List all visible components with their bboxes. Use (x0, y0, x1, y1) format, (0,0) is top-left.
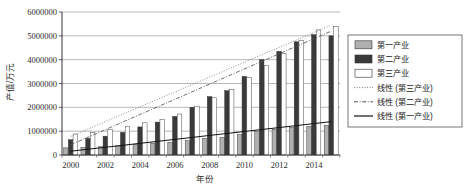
bar-第三产业 (108, 129, 113, 155)
bar-第二产业 (155, 122, 160, 155)
legend-label: 第一产业 (377, 40, 409, 50)
bar-第二产业 (173, 116, 178, 155)
bar-第一产业 (289, 128, 294, 155)
legend-label: 线性 (第三产业) (377, 83, 433, 93)
bar-第三产业 (229, 89, 234, 155)
legend-label: 第二产业 (377, 54, 409, 64)
bar-第三产业 (143, 123, 148, 155)
bar-第三产业 (282, 54, 287, 155)
bar-第三产业 (212, 98, 217, 155)
y-tick-label: 3000000 (27, 79, 57, 89)
bar-第一产业 (64, 148, 68, 155)
bar-第二产业 (277, 51, 282, 155)
bar-第二产业 (312, 35, 317, 155)
bar-第二产业 (294, 42, 299, 155)
bar-第三产业 (125, 126, 130, 155)
bar-第三产业 (247, 78, 252, 155)
bar-第一产业 (255, 132, 260, 155)
bar-第一产业 (116, 146, 121, 155)
x-tick-label: 2000 (62, 160, 79, 170)
bar-第二产业 (190, 107, 195, 155)
bar-第一产业 (203, 138, 208, 155)
bar-第二产业 (225, 91, 230, 155)
bar-第三产业 (160, 119, 165, 155)
bar-第一产业 (237, 135, 242, 155)
legend-label: 线性 (第一产业) (377, 111, 433, 121)
x-axis-ticks: 20002002200420062008201020122014 (62, 155, 340, 170)
bar-第三产业 (177, 114, 182, 155)
x-tick-label: 2008 (201, 160, 218, 170)
legend-swatch-icon (355, 55, 372, 63)
legend-swatch-icon (355, 41, 372, 49)
bar-第二产业 (242, 76, 247, 155)
y-tick-label: 2000000 (27, 102, 57, 112)
legend-item: 第二产业 (355, 54, 409, 64)
bar-第三产业 (195, 106, 200, 155)
bar-第二产业 (103, 136, 108, 155)
legend-item: 第一产业 (355, 40, 409, 50)
x-tick-label: 2004 (132, 160, 150, 170)
bar-第一产业 (324, 125, 329, 155)
y-tick-label: 6000000 (27, 7, 57, 17)
y-tick-label: 5000000 (27, 31, 57, 41)
bar-第二产业 (86, 138, 91, 155)
bar-第二产业 (138, 127, 143, 155)
industry-output-bar-chart: 0100000020000003000000400000050000006000… (0, 0, 466, 189)
bar-第二产业 (329, 36, 334, 155)
bar-第一产业 (220, 137, 225, 155)
x-axis-title: 年份 (196, 174, 214, 184)
x-tick-label: 2002 (97, 160, 114, 170)
y-tick-label: 1000000 (27, 126, 57, 136)
bar-第二产业 (207, 97, 212, 155)
y-axis-title: 产值/万元 (5, 63, 15, 101)
y-axis-ticks: 0100000020000003000000400000050000006000… (27, 7, 62, 160)
x-tick-label: 2006 (166, 160, 183, 170)
x-tick-label: 2014 (305, 160, 323, 170)
bar-第三产业 (316, 30, 321, 155)
bar-第一产业 (81, 147, 86, 155)
bar-第一产业 (185, 141, 190, 155)
bar-第二产业 (68, 140, 73, 155)
bar-第一产业 (133, 144, 138, 155)
legend-label: 线性 (第二产业) (377, 97, 433, 107)
bar-第一产业 (272, 129, 277, 155)
bar-第三产业 (299, 41, 304, 155)
bar-第一产业 (150, 143, 155, 155)
trendline-线性 (第三产业) (71, 25, 332, 136)
legend-label: 第三产业 (377, 68, 409, 78)
y-tick-label: 0 (53, 150, 57, 160)
bar-第三产业 (264, 66, 269, 155)
y-tick-label: 4000000 (27, 55, 57, 65)
bar-第一产业 (307, 126, 312, 155)
bar-第二产业 (120, 132, 125, 155)
chart-figure: 0100000020000003000000400000050000006000… (0, 0, 466, 189)
chart-legend: 第一产业第二产业第三产业线性 (第三产业)线性 (第二产业)线性 (第一产业) (348, 35, 462, 127)
bar-第三产业 (73, 134, 78, 155)
bar-第二产业 (259, 60, 264, 155)
bar-第三产业 (334, 26, 339, 155)
bar-第一产业 (168, 142, 173, 155)
legend-item: 第三产业 (355, 68, 409, 78)
x-tick-label: 2012 (271, 160, 288, 170)
x-tick-label: 2010 (236, 160, 253, 170)
legend-swatch-icon (355, 69, 372, 77)
